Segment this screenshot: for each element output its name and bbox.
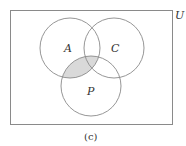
venn-diagram: A C P U (c) xyxy=(0,0,186,146)
label-c: C xyxy=(111,42,120,55)
caption: (c) xyxy=(84,131,98,142)
label-universe: U xyxy=(175,9,185,22)
label-a: A xyxy=(63,42,72,55)
label-p: P xyxy=(86,85,95,98)
